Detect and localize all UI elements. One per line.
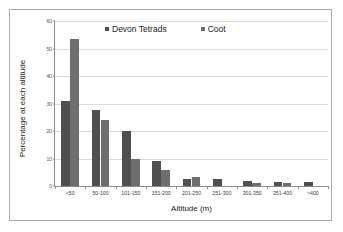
bar — [192, 177, 201, 186]
legend-label: Devon Tetrads — [112, 24, 167, 34]
y-tick-label: 0 — [49, 183, 52, 189]
bar — [61, 101, 70, 186]
bar — [243, 181, 252, 187]
bar — [122, 131, 131, 186]
bar-group — [122, 21, 140, 186]
bar-group — [92, 21, 110, 186]
y-tick-label: 40 — [46, 73, 52, 79]
bar-group — [304, 21, 322, 186]
x-axis-line — [54, 186, 328, 187]
x-tick-label: 151-200 — [152, 190, 171, 196]
y-tick-mark — [53, 76, 55, 77]
y-axis-title-text: Percentage at each altitude — [19, 59, 28, 156]
y-tick-mark — [53, 103, 55, 104]
x-tick-label: 301-350 — [243, 190, 262, 196]
chart-legend: Devon TetradsCoot — [105, 24, 295, 34]
bar — [101, 120, 110, 186]
legend-label: Coot — [208, 24, 226, 34]
y-tick-mark — [53, 48, 55, 49]
x-axis-title: Altitude (m) — [55, 204, 328, 213]
x-tick-mark — [55, 186, 56, 189]
x-tick-mark — [328, 186, 329, 189]
bar — [252, 183, 261, 186]
x-tick-mark — [146, 186, 147, 189]
y-tick-mark — [53, 21, 55, 22]
y-tick-label: 50 — [46, 46, 52, 52]
bar — [70, 39, 79, 186]
x-tick-label: <50 — [66, 190, 75, 196]
y-tick-mark — [53, 158, 55, 159]
bar — [274, 182, 283, 186]
y-axis-title: Percentage at each altitude — [16, 28, 30, 188]
bar-group — [274, 21, 292, 186]
chart-figure: 0102030405060 <5050-100101-150151-200201… — [0, 0, 343, 232]
legend-entry: Coot — [201, 24, 226, 34]
y-tick-label: 60 — [46, 18, 52, 24]
bar-group — [183, 21, 201, 186]
plot-area: 0102030405060 <5050-100101-150151-200201… — [55, 21, 328, 186]
x-tick-label: 201-250 — [182, 190, 201, 196]
x-tick-label: 251-300 — [212, 190, 231, 196]
bar — [283, 183, 292, 186]
y-tick-label: 10 — [46, 156, 52, 162]
x-tick-label: 101-150 — [121, 190, 140, 196]
bar-group — [213, 21, 231, 186]
x-tick-mark — [116, 186, 117, 189]
x-tick-mark — [207, 186, 208, 189]
x-tick-label: 351-400 — [273, 190, 292, 196]
bar — [213, 179, 222, 186]
bar — [183, 179, 192, 186]
y-tick-mark — [53, 131, 55, 132]
legend-entry: Devon Tetrads — [105, 24, 167, 34]
x-tick-mark — [85, 186, 86, 189]
bar-group — [243, 21, 261, 186]
x-tick-mark — [176, 186, 177, 189]
bar — [92, 110, 101, 186]
bar — [304, 182, 313, 186]
x-tick-mark — [298, 186, 299, 189]
x-tick-mark — [237, 186, 238, 189]
bar — [152, 161, 161, 186]
legend-swatch-icon — [105, 27, 109, 31]
bar — [161, 170, 170, 187]
bar — [131, 159, 140, 186]
x-tick-label: >400 — [307, 190, 319, 196]
bar-group — [152, 21, 170, 186]
bar-group — [61, 21, 79, 186]
y-tick-label: 30 — [46, 101, 52, 107]
legend-swatch-icon — [201, 27, 205, 31]
x-tick-mark — [267, 186, 268, 189]
y-tick-label: 20 — [46, 128, 52, 134]
x-tick-label: 50-100 — [92, 190, 108, 196]
